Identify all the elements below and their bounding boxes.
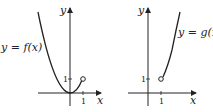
right-graph: 1 1 y x y = g(x	[128, 4, 213, 107]
right-y-axis-label: y	[137, 4, 145, 17]
left-graph: 1 1 y x y = f(x)	[0, 4, 104, 107]
f-open-endpoint	[81, 77, 86, 82]
right-y-tick-label: 1	[141, 75, 146, 84]
left-x-axis-label: x	[97, 94, 104, 107]
g-function-label: y = g(x	[177, 26, 213, 39]
f-function-label: y = f(x)	[0, 41, 42, 54]
function-graphs-figure: 1 1 y x y = f(x) 1 1 y x y = g(x	[0, 0, 213, 112]
g-curve	[163, 12, 180, 77]
right-x-tick-label: 1	[159, 97, 164, 106]
right-x-axis-label: x	[190, 94, 197, 107]
g-open-endpoint	[159, 77, 164, 82]
left-y-tick-label: 1	[63, 75, 68, 84]
f-curve	[38, 12, 82, 93]
left-y-axis-label: y	[59, 4, 67, 17]
left-x-tick-label: 1	[81, 97, 86, 106]
